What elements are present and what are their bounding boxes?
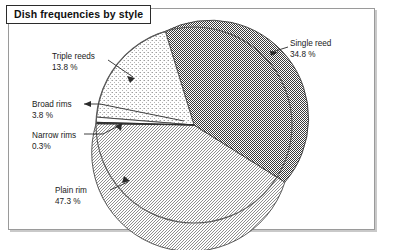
slice-label-narrow-rims: Narrow rims 0.3% xyxy=(32,131,76,152)
slice-label-narrow-rims-value: 0.3% xyxy=(32,142,76,153)
slice-label-single-reed-name: Single reed xyxy=(290,39,331,48)
slice-label-triple-reeds: Triple reeds 13.8 % xyxy=(52,52,95,73)
slice-label-plain-rim-value: 47.3 % xyxy=(55,197,87,208)
slice-label-narrow-rims-name: Narrow rims xyxy=(32,131,76,140)
slice-label-triple-reeds-value: 13.8 % xyxy=(52,63,95,74)
slice-label-plain-rim: Plain rim 47.3 % xyxy=(55,186,87,207)
slice-label-single-reed-value: 34.8 % xyxy=(290,50,331,61)
pie-chart-svg xyxy=(0,0,393,250)
page-title: Dish frequencies by style xyxy=(14,8,143,20)
arrowhead-broad-rims xyxy=(84,101,91,107)
slice-label-plain-rim-name: Plain rim xyxy=(55,186,87,195)
slice-label-single-reed: Single reed 34.8 % xyxy=(290,39,331,60)
slice-label-broad-rims-value: 3.8 % xyxy=(32,111,72,122)
chart-title-box: Dish frequencies by style xyxy=(6,5,151,24)
slice-label-triple-reeds-name: Triple reeds xyxy=(52,52,95,61)
slice-label-broad-rims-name: Broad rims xyxy=(32,100,72,109)
slice-label-broad-rims: Broad rims 3.8 % xyxy=(32,100,72,121)
pie-chart-figure: Dish frequencies by style xyxy=(0,0,393,250)
